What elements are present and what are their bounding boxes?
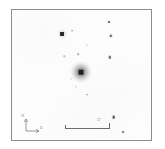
compass-north-label: N (21, 113, 24, 118)
image-frame: N E 5″ (11, 9, 152, 141)
annotation-layer: N E 5″ (12, 10, 151, 140)
figure-root: N E 5″ (0, 0, 165, 149)
scale-bar-label: 5″ (97, 117, 102, 123)
scale-bar-tick-right (109, 123, 110, 129)
compass-east-label: E (40, 125, 43, 130)
scale-bar-line (65, 128, 109, 129)
compass-marker: N E (20, 114, 46, 134)
scale-bar: 5″ (65, 116, 113, 132)
scale-bar-tick-left (65, 125, 66, 129)
